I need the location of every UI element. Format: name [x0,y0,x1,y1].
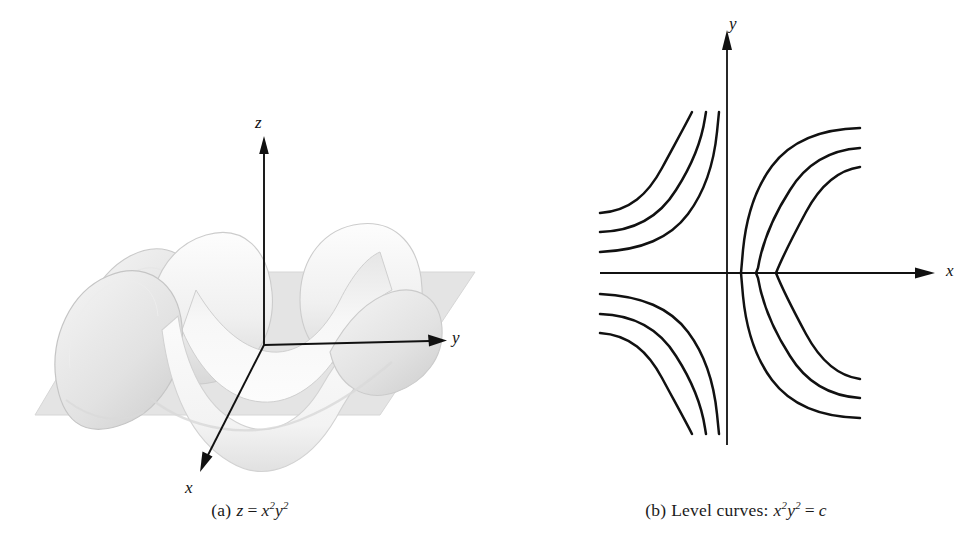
level-curves-quadrant-1 [741,128,860,273]
axis-label-x: x [946,261,954,281]
caption-a-rhs-exp-y: 2 [283,499,289,511]
caption-a-label: (a) [211,500,231,520]
level-curves-graphic [500,0,972,500]
caption-a-rhs-base-y: y [275,500,283,520]
axis-label-y: y [452,328,460,348]
level-curves-quadrant-3 [600,294,719,434]
caption-a-equals: = [243,500,261,520]
axis-x [600,268,935,279]
caption-b-constant: c [819,500,827,520]
figure-container: z y x (a)z=x2y2 [0,0,972,556]
caption-b-text: Level curves: [666,500,768,520]
caption-b-exp-y: 2 [795,499,801,511]
caption-b-base-x: x [774,500,782,520]
panel-surface-plot: z y x (a)z=x2y2 [0,0,500,556]
panel-level-curves: y x (b)Level curves:x2y2=c [500,0,972,556]
level-curves-quadrant-4 [741,273,860,418]
axis-label-y: y [729,14,737,34]
caption-b-label: (b) [645,500,666,520]
caption-b-equals: = [801,500,819,520]
caption-panel-a: (a)z=x2y2 [0,500,500,521]
surface-plot-graphic [0,0,500,500]
axis-label-z: z [255,113,262,133]
caption-panel-b: (b)Level curves:x2y2=c [500,500,972,521]
axis-y [722,30,732,445]
level-curves-quadrant-2 [600,112,719,252]
caption-b-base-y: y [787,500,795,520]
axis-label-x: x [185,478,193,498]
